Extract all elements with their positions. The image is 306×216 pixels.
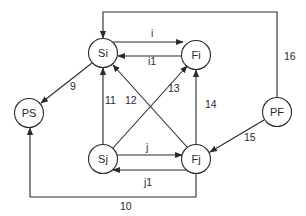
edge-15: 15 xyxy=(210,120,264,152)
edge-11: 11 xyxy=(103,68,116,145)
precedence-diagram: 16 i i1 9 11 12 13 14 j j1 xyxy=(0,0,306,216)
edge-j-label: j xyxy=(145,141,148,153)
edge-12: 12 xyxy=(113,65,187,147)
node-ps: PS xyxy=(15,99,44,128)
edge-9: 9 xyxy=(41,63,92,103)
edge-12-label: 12 xyxy=(125,94,137,106)
node-ps-label: PS xyxy=(22,107,37,119)
edge-j: j xyxy=(117,141,182,155)
node-fi-label: Fi xyxy=(191,49,200,61)
edge-11-label: 11 xyxy=(105,94,116,106)
edge-13: 13 xyxy=(113,66,187,148)
edge-j1-label: j1 xyxy=(143,176,152,188)
edge-14-label: 14 xyxy=(205,98,217,110)
node-fj-label: Fj xyxy=(191,153,200,165)
node-si-label: Si xyxy=(98,47,108,59)
node-fi: Fi xyxy=(182,41,211,70)
node-sj-label: Sj xyxy=(98,153,108,165)
edge-i1: i1 xyxy=(118,55,183,67)
node-pf-label: PF xyxy=(270,106,284,118)
edge-16-label: 16 xyxy=(284,50,296,62)
edge-i1-label: i1 xyxy=(148,55,156,67)
node-si: Si xyxy=(89,39,118,68)
node-sj: Sj xyxy=(89,145,118,174)
edge-i: i xyxy=(113,27,183,42)
edge-i-label: i xyxy=(151,27,153,39)
edge-j1: j1 xyxy=(113,170,186,188)
edge-10-label: 10 xyxy=(120,200,132,212)
edge-13-label: 13 xyxy=(168,82,180,94)
edge-9-label: 9 xyxy=(70,80,76,92)
edge-14: 14 xyxy=(196,70,217,145)
node-pf: PF xyxy=(263,98,292,127)
node-fj: Fj xyxy=(182,145,211,174)
edge-15-label: 15 xyxy=(244,131,256,143)
